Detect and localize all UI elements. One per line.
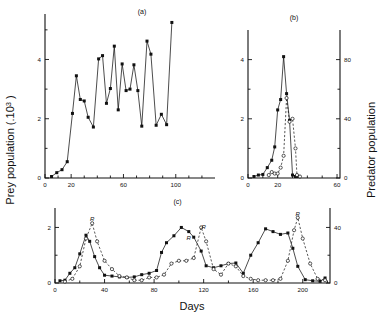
predator-prey-figure: (a)02060100024 (b)0206002404080 (c)04080…: [0, 0, 386, 328]
data-point-predator: [227, 262, 230, 265]
x-axis-title: Days: [179, 300, 205, 312]
data-point-predator: [288, 120, 291, 123]
x-tick-label: 80: [151, 286, 158, 293]
data-point-prey: [75, 74, 78, 77]
x-tick-label: 20: [68, 181, 75, 188]
data-point-prey: [270, 159, 273, 162]
data-point-predator: [148, 276, 151, 279]
x-tick-label: 120: [198, 286, 209, 293]
data-point-predator: [219, 273, 222, 276]
data-point-prey: [172, 234, 175, 237]
data-point-prey: [252, 175, 255, 178]
y-tick-label-left: 0: [48, 279, 52, 286]
data-point-prey: [66, 160, 69, 163]
data-point-prey: [257, 241, 260, 244]
panel-c-title: (c): [173, 198, 181, 206]
data-point-prey: [160, 251, 163, 254]
data-point-prey: [71, 112, 74, 115]
data-point-prey: [311, 279, 314, 282]
data-point-prey: [110, 275, 113, 278]
r-annotation: R: [296, 211, 301, 217]
data-point-predator: [110, 268, 113, 271]
data-point-prey: [264, 227, 267, 230]
data-point-predator: [71, 277, 74, 280]
data-point-prey: [282, 55, 285, 58]
x-tick-label: 200: [298, 286, 309, 293]
data-point-predator: [309, 262, 312, 265]
data-point-predator: [323, 279, 326, 282]
data-point-prey: [129, 88, 132, 91]
data-point-prey: [291, 174, 294, 177]
x-tick-label: 0: [53, 286, 57, 293]
data-point-predator: [212, 268, 215, 271]
data-point-prey: [187, 230, 190, 233]
y-tick-label-right: 80: [344, 56, 351, 63]
data-point-prey: [113, 45, 116, 48]
y-tick-label: 4: [38, 56, 42, 63]
data-point-prey: [165, 123, 168, 126]
data-point-prey: [87, 116, 90, 119]
data-point-prey: [58, 279, 61, 282]
data-point-prey: [234, 262, 237, 265]
data-point-predator: [91, 222, 94, 225]
data-point-prey: [149, 53, 152, 56]
data-point-prey: [98, 266, 101, 269]
data-point-prey: [155, 269, 158, 272]
data-point-predator: [282, 154, 285, 157]
y-axis-title-right: Predator population: [365, 102, 377, 198]
data-point-predator: [192, 256, 195, 259]
data-point-predator: [234, 265, 237, 268]
data-point-predator: [291, 117, 294, 120]
data-point-prey: [319, 280, 322, 283]
data-point-prey: [148, 272, 151, 275]
data-point-predator: [125, 276, 128, 279]
data-point-prey: [133, 275, 136, 278]
data-point-prey: [92, 126, 95, 129]
data-point-prey: [192, 236, 195, 239]
y-tick-label-right: 0: [344, 174, 348, 181]
data-point-prey: [83, 99, 86, 102]
panel-b: (b)0206002404080: [241, 14, 352, 188]
data-point-predator: [205, 240, 208, 243]
data-point-prey: [55, 171, 58, 174]
panel-a: (a)02060100024: [38, 8, 215, 188]
data-point-prey: [73, 266, 76, 269]
data-point-prey: [121, 62, 124, 65]
data-point-prey: [170, 21, 173, 24]
data-point-predator: [276, 172, 279, 175]
series-line-prey: [254, 57, 299, 177]
data-point-prey: [79, 98, 82, 101]
data-point-prey: [304, 278, 307, 281]
series-line-prey: [60, 227, 325, 281]
data-point-prey: [273, 145, 276, 148]
data-point-predator: [96, 240, 99, 243]
data-point-prey: [109, 87, 112, 90]
panel-a-title: (a): [138, 8, 147, 16]
r-annotation: R: [187, 235, 192, 241]
data-point-prey: [279, 98, 282, 101]
data-point-prey: [132, 63, 135, 66]
series-line-predator: [65, 218, 325, 282]
data-point-predator: [285, 96, 288, 99]
data-point-predator: [185, 259, 188, 262]
data-point-prey: [180, 226, 183, 229]
data-point-predator: [242, 274, 245, 277]
data-point-prey: [276, 108, 279, 111]
y-tick-label-right: 0: [334, 279, 338, 286]
data-point-prey: [155, 124, 158, 127]
y-tick-label-left: 0: [241, 174, 245, 181]
data-point-predator: [177, 259, 180, 262]
data-point-prey: [279, 233, 282, 236]
y-tick-label: 2: [38, 115, 42, 122]
data-point-prey: [88, 240, 91, 243]
x-tick-label: 60: [334, 181, 341, 188]
data-point-predator: [155, 276, 158, 279]
data-point-prey: [205, 264, 208, 267]
data-point-prey: [165, 241, 168, 244]
data-point-predator: [264, 279, 267, 282]
data-point-predator: [298, 175, 301, 178]
data-point-prey: [140, 125, 143, 128]
data-point-prey: [296, 265, 299, 268]
data-point-prey: [261, 173, 264, 176]
x-tick-label: 160: [248, 286, 259, 293]
